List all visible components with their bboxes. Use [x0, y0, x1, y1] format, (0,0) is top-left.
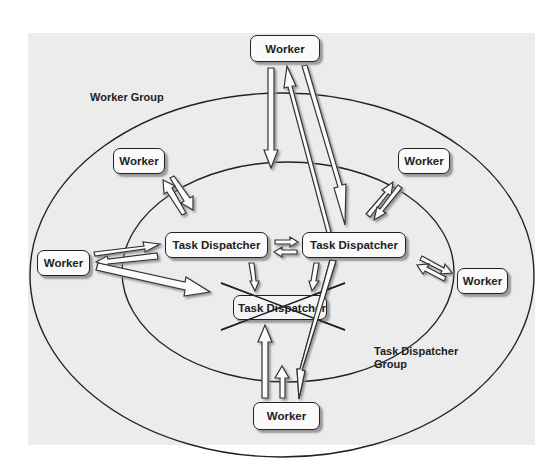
arrow-left-dispatcher-to-failed [249, 263, 259, 291]
arrow-top-worker-to-dispatcher [302, 65, 346, 225]
arrow-left-to-right-dispatcher [275, 237, 298, 247]
worker-node-right: Worker [457, 268, 508, 294]
worker-group-label: Worker Group [90, 91, 164, 104]
dispatcher-node-left: Task Dispatcher [165, 232, 268, 258]
dispatcher-node-right: Task Dispatcher [302, 232, 406, 258]
dispatcher-group-label-line1: Task Dispatcher [374, 345, 458, 358]
arrow-right-dispatcher-to-failed [309, 263, 319, 291]
worker-node-left: Worker [37, 250, 90, 276]
dispatcher-node-failed: Task Dispatcher [233, 295, 327, 320]
worker-node-upper-left: Worker [113, 148, 165, 174]
arrow-dispatcher-to-top-worker [284, 66, 331, 233]
arrow-top-worker-down [264, 68, 278, 168]
worker-node-bottom: Worker [253, 402, 320, 430]
dispatcher-group-label: Task Dispatcher Group [374, 345, 458, 371]
dispatcher-group-label-line2: Group [374, 358, 458, 371]
arrow-left-worker-to-failed-dispatcher [96, 263, 210, 296]
worker-node-top: Worker [250, 35, 320, 62]
arrow-bottom-worker-to-failed [258, 325, 272, 398]
arrow-right-to-left-dispatcher [274, 247, 297, 257]
worker-node-upper-right: Worker [398, 148, 450, 174]
